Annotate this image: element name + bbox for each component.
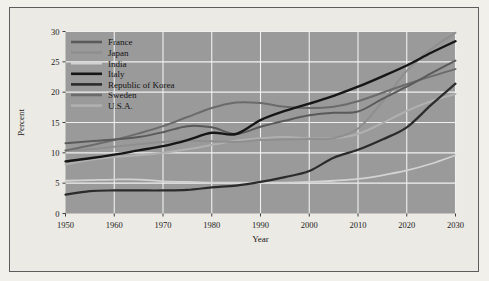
- x-tick-label: 2000: [301, 220, 318, 230]
- x-tick-label: 1950: [57, 220, 74, 230]
- legend-label: India: [108, 59, 127, 69]
- x-tick-label: 1990: [252, 220, 269, 230]
- x-tick-label: 2030: [447, 220, 464, 230]
- y-tick-label: 15: [51, 118, 60, 128]
- y-tick-label: 20: [51, 87, 60, 97]
- x-tick-label: 2010: [350, 220, 367, 230]
- y-tick-label: 30: [51, 27, 60, 37]
- legend-label: Japan: [108, 48, 129, 58]
- chart-area: 0510152025301950196019701980199020002010…: [0, 0, 489, 281]
- legend-label: Sweden: [108, 90, 137, 100]
- y-tick-label: 5: [55, 178, 59, 188]
- y-axis-title: Percent: [16, 109, 26, 136]
- line-chart: 0510152025301950196019701980199020002010…: [0, 0, 489, 281]
- x-tick-label: 1960: [106, 220, 123, 230]
- legend-label: U.S.A.: [108, 101, 133, 111]
- legend-label: Republic of Korea: [108, 80, 174, 90]
- x-axis-title: Year: [252, 234, 269, 244]
- figure-container: 0510152025301950196019701980199020002010…: [0, 0, 489, 281]
- y-tick-label: 25: [51, 57, 60, 67]
- x-tick-label: 1970: [155, 220, 172, 230]
- y-tick-label: 10: [51, 148, 60, 158]
- legend-label: Italy: [108, 69, 125, 79]
- legend-label: France: [108, 37, 133, 47]
- x-tick-label: 2020: [398, 220, 415, 230]
- x-tick-label: 1980: [203, 220, 220, 230]
- y-tick-label: 0: [55, 209, 59, 219]
